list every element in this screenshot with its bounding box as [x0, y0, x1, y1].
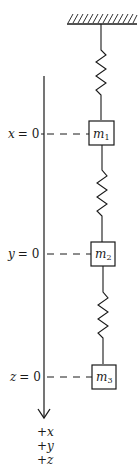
- spring-k2: [97, 145, 107, 242]
- origin-y-label: y= 0: [7, 247, 39, 261]
- positive-y-label: +y: [37, 439, 54, 453]
- ceiling-support: [67, 14, 137, 24]
- positive-x-label: +x: [37, 425, 54, 439]
- spring-mass-diagram: m1 m2 m3 x= 0 y= 0 z= 0 +x +y +z: [0, 0, 140, 476]
- positive-z-label: +z: [37, 453, 54, 467]
- mass-m2: m2: [91, 242, 115, 266]
- positive-direction-labels: +x +y +z: [37, 425, 54, 467]
- origin-x-label: x= 0: [8, 127, 39, 141]
- origin-x: x= 0: [8, 127, 89, 141]
- origin-z: z= 0: [9, 370, 92, 384]
- spring-k3: [98, 266, 108, 364]
- mass-m1: m1: [89, 121, 114, 145]
- origin-z-label: z= 0: [9, 370, 41, 384]
- spring-k1: [96, 24, 106, 120]
- mass-m3: m3: [92, 365, 116, 389]
- ceiling-hatch: [68, 14, 137, 23]
- coordinate-axis: [38, 76, 50, 418]
- origin-y: y= 0: [7, 247, 91, 261]
